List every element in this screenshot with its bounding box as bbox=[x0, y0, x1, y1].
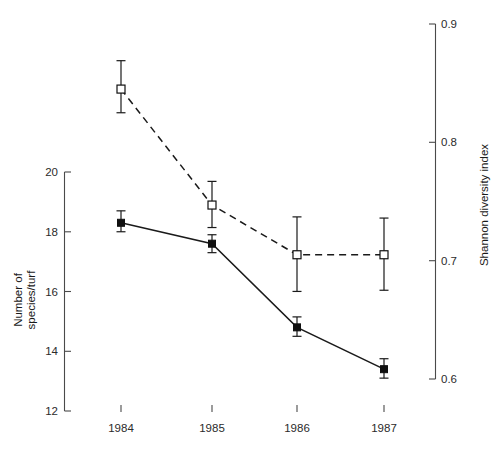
left-axis-title-line1: Number of bbox=[12, 272, 24, 326]
datapoint-species-1987 bbox=[380, 359, 389, 378]
datapoint-shannon-1986 bbox=[293, 217, 302, 292]
left-tick-label-18: 18 bbox=[45, 226, 58, 238]
figure-panel: 20 18 16 14 12 Number of species/turf 0.… bbox=[0, 0, 503, 451]
chart-canvas: 20 18 16 14 12 Number of species/turf 0.… bbox=[0, 0, 503, 451]
marker-open-square[interactable] bbox=[208, 201, 216, 209]
right-tick-label-0.8: 0.8 bbox=[441, 136, 457, 148]
left-tick-label-12: 12 bbox=[45, 405, 58, 417]
caption-strip bbox=[0, 441, 503, 451]
datapoint-species-1985 bbox=[208, 235, 217, 253]
left-axis: 20 18 16 14 12 bbox=[45, 166, 71, 417]
right-tick-label-0.9: 0.9 bbox=[441, 18, 457, 30]
marker-filled-square[interactable] bbox=[294, 324, 301, 331]
datapoint-species-1986 bbox=[293, 317, 302, 336]
right-axis: 0.9 0.8 0.7 0.6 bbox=[429, 18, 457, 385]
marker-open-square[interactable] bbox=[293, 251, 301, 259]
x-tick-label-1986: 1986 bbox=[284, 422, 310, 434]
left-axis-title-line2: species/turf bbox=[25, 270, 37, 330]
left-axis-title: Number of species/turf bbox=[12, 270, 37, 330]
x-axis: 1984 1985 1986 1987 bbox=[108, 405, 397, 434]
marker-filled-square[interactable] bbox=[209, 240, 216, 247]
marker-filled-square[interactable] bbox=[118, 219, 125, 226]
right-tick-label-0.6: 0.6 bbox=[441, 373, 457, 385]
right-tick-label-0.7: 0.7 bbox=[441, 255, 457, 267]
datapoint-shannon-1987 bbox=[380, 218, 389, 290]
x-tick-label-1984: 1984 bbox=[108, 422, 134, 434]
datapoint-shannon-1984 bbox=[117, 61, 126, 113]
x-tick-label-1987: 1987 bbox=[371, 422, 397, 434]
right-axis-title-text: Shannon diversity index bbox=[478, 144, 490, 266]
left-tick-label-14: 14 bbox=[45, 345, 58, 357]
x-tick-label-1985: 1985 bbox=[199, 422, 225, 434]
series-line-species bbox=[121, 223, 384, 369]
series-line-shannon bbox=[121, 89, 384, 255]
series-layer bbox=[117, 61, 389, 378]
left-tick-label-16: 16 bbox=[45, 286, 58, 298]
right-axis-title: Shannon diversity index bbox=[478, 144, 490, 266]
marker-filled-square[interactable] bbox=[381, 366, 388, 373]
datapoint-shannon-1985 bbox=[208, 181, 217, 227]
left-tick-label-20: 20 bbox=[45, 166, 58, 178]
marker-open-square[interactable] bbox=[380, 251, 388, 259]
datapoint-species-1984 bbox=[117, 211, 126, 232]
marker-open-square[interactable] bbox=[117, 85, 125, 93]
